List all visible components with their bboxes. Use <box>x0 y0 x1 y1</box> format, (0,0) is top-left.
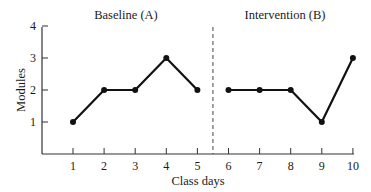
data-point <box>350 55 356 61</box>
data-point <box>288 87 294 93</box>
x-tick-label: 5 <box>194 159 200 173</box>
x-tick-label: 9 <box>319 159 325 173</box>
x-tick-label: 4 <box>163 159 169 173</box>
y-tick-label: 2 <box>30 83 36 97</box>
data-point <box>319 119 325 125</box>
series-baseline <box>70 55 200 125</box>
y-tick-label: 4 <box>30 19 36 33</box>
data-point <box>101 87 107 93</box>
data-point <box>194 87 200 93</box>
phase-label-baseline: Baseline (A) <box>94 8 158 22</box>
y-tick-label: 1 <box>30 115 36 129</box>
data-point <box>70 119 76 125</box>
x-axis-title: Class days <box>171 174 224 188</box>
x-tick-label: 7 <box>257 159 263 173</box>
x-tick-label: 3 <box>132 159 138 173</box>
x-axis-ticks: 12345678910 <box>70 148 359 173</box>
x-tick-label: 8 <box>288 159 294 173</box>
phase-label-intervention: Intervention (B) <box>245 8 326 22</box>
data-point <box>226 87 232 93</box>
data-point <box>163 55 169 61</box>
x-tick-label: 1 <box>70 159 76 173</box>
data-point <box>257 87 263 93</box>
x-tick-label: 10 <box>347 159 359 173</box>
y-axis-title: Modules <box>14 68 28 112</box>
data-point <box>132 87 138 93</box>
series-intervention <box>226 55 356 125</box>
single-subject-line-chart: Baseline (A) Intervention (B) Modules Cl… <box>0 0 371 192</box>
x-tick-label: 6 <box>226 159 232 173</box>
y-axis-ticks: 1234 <box>30 19 48 129</box>
y-tick-label: 3 <box>30 51 36 65</box>
x-tick-label: 2 <box>101 159 107 173</box>
